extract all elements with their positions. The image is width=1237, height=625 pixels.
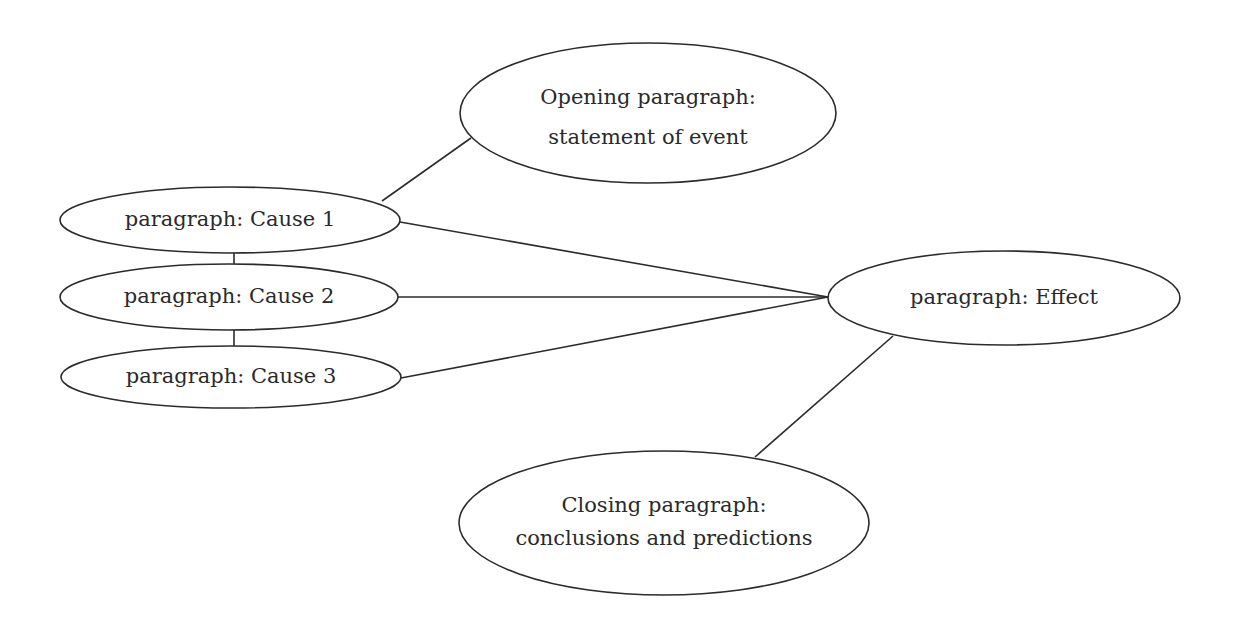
edge-cause1-effect [400,222,828,297]
node-closing: Closing paragraph: conclusions and predi… [459,451,869,595]
node-cause2: paragraph: Cause 2 [60,264,398,330]
node-opening-line1: Opening paragraph: [540,85,756,109]
node-opening-line2: statement of event [548,125,748,149]
node-opening: Opening paragraph: statement of event [460,43,836,183]
node-closing-shape [459,451,869,595]
node-opening-shape [460,43,836,183]
edge-cause3-effect [401,297,828,378]
node-cause1: paragraph: Cause 1 [60,187,400,253]
cause-effect-diagram: Opening paragraph: statement of event pa… [0,0,1237,625]
node-cause3-label: paragraph: Cause 3 [126,364,337,388]
node-cause2-label: paragraph: Cause 2 [124,284,335,308]
node-cause3: paragraph: Cause 3 [61,346,401,408]
node-cause1-label: paragraph: Cause 1 [125,207,336,231]
node-closing-line2: conclusions and predictions [515,526,812,550]
edge-cause1-opening [382,138,471,201]
node-effect: paragraph: Effect [828,251,1180,345]
node-closing-line1: Closing paragraph: [561,493,766,517]
edge-effect-closing [755,336,893,457]
node-effect-label: paragraph: Effect [910,285,1099,309]
